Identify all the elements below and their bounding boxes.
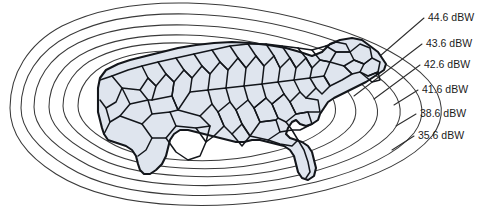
contour-map-figure: 44.6 dBW 43.6 dBW 42.6 dBW 41.6 dBW 38.6… [0,0,497,215]
contour-label-43-6: 43.6 dBW [426,37,472,49]
contour-label-44-6: 44.6 dBW [428,11,474,23]
contour-map-svg: 44.6 dBW 43.6 dBW 42.6 dBW 41.6 dBW 38.6… [0,0,497,215]
contour-label-42-6: 42.6 dBW [424,58,470,70]
contour-label-41-6: 41.6 dBW [422,83,468,95]
contour-label-35-6: 35.6 dBW [418,129,464,141]
contour-label-38-6: 38.6 dBW [420,107,466,119]
